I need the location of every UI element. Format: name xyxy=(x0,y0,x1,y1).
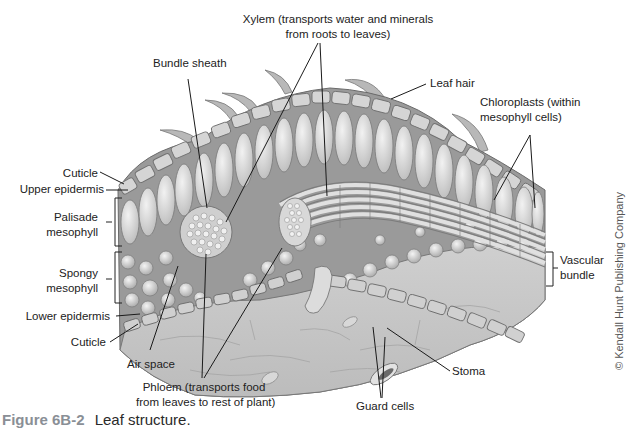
label-bundle-sheath: Bundle sheath xyxy=(153,56,227,71)
label-guard-cells: Guard cells xyxy=(356,399,414,414)
label-xylem: Xylem (transports water and minerals fro… xyxy=(233,12,443,42)
label-spongy-mesophyll: Spongy mesophyll xyxy=(46,266,98,296)
label-chloroplasts: Chloroplasts (within mesophyll cells) xyxy=(480,95,580,125)
label-air-space: Air space xyxy=(127,357,175,372)
label-cuticle-bottom: Cuticle xyxy=(71,335,106,350)
figure-number: Figure 6B-2 xyxy=(2,411,85,428)
label-stoma: Stoma xyxy=(452,364,485,379)
figure-title: Leaf structure. xyxy=(95,411,191,428)
label-lower-epidermis: Lower epidermis xyxy=(26,309,110,324)
copyright-credit: © Kendall Hunt Publishing Company xyxy=(613,192,625,370)
label-phloem: Phloem (transports food from leaves to r… xyxy=(136,380,272,410)
label-upper-epidermis: Upper epidermis xyxy=(20,182,104,197)
label-vascular-bundle: Vascular bundle xyxy=(560,253,604,283)
label-leaf-hair: Leaf hair xyxy=(430,76,475,91)
label-palisade-mesophyll: Palisade mesophyll xyxy=(46,210,98,240)
label-cuticle-top: Cuticle xyxy=(63,166,98,181)
leaf-structure-figure: Xylem (transports water and minerals fro… xyxy=(0,0,628,430)
figure-caption: Figure 6B-2 Leaf structure. xyxy=(2,411,191,428)
